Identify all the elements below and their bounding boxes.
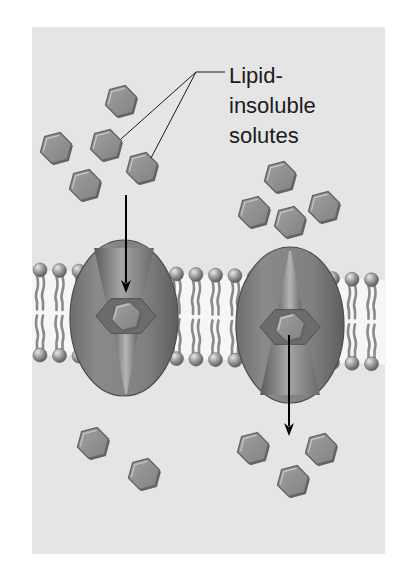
lipid-head (53, 349, 67, 363)
lipid-head (365, 357, 379, 371)
lipid-head (53, 264, 67, 278)
lipid-head (228, 269, 242, 283)
lipid-head (33, 348, 47, 362)
channel-left (70, 240, 178, 396)
lipid-head (189, 268, 203, 282)
lipid-head (170, 267, 184, 281)
membrane-transport-diagram: Lipid- insoluble solutes (0, 0, 412, 569)
lipid-head (345, 356, 359, 370)
lipid-head (365, 273, 379, 287)
lipid-head (209, 353, 223, 367)
label-line-3: solutes (229, 123, 299, 148)
lipid-head (33, 263, 47, 277)
lipid-head (345, 272, 359, 286)
label-line-2: insoluble (229, 93, 316, 118)
lipid-head (189, 352, 203, 366)
label-line-1: Lipid- (229, 63, 283, 88)
lipid-head (209, 268, 223, 282)
